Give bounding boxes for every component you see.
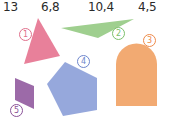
- label-5: 5: [10, 104, 23, 117]
- label-1: 1: [19, 28, 32, 41]
- shape-1-triangle: [24, 18, 60, 64]
- label-4: 4: [77, 55, 90, 68]
- label-2: 2: [112, 27, 125, 40]
- shape-4-pentagon: [47, 62, 97, 116]
- shape-3-arch: [116, 43, 157, 106]
- shapes-worksheet: 13 6,8 10,4 4,5 1 2 3 4 5: [0, 0, 172, 122]
- label-3: 3: [143, 34, 156, 47]
